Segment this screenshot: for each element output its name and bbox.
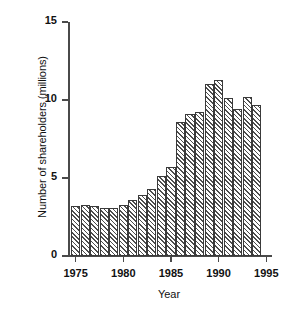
plot-area: 051015 19751980198519901995 <box>68 22 272 256</box>
bar <box>166 167 175 256</box>
x-axis-title: Year <box>66 288 272 300</box>
x-axis-tick: 1980 <box>123 256 125 262</box>
bar <box>205 84 214 256</box>
x-axis-tick-label: 1995 <box>254 267 278 279</box>
bar <box>157 176 166 256</box>
bar <box>147 189 156 256</box>
bar <box>214 80 223 256</box>
bar <box>128 200 137 256</box>
bar <box>252 105 261 256</box>
bar <box>71 206 80 256</box>
bar <box>138 195 147 256</box>
y-axis-tick-label: 15 <box>45 14 57 26</box>
bar <box>224 98 233 256</box>
y-axis-tick-label: 10 <box>45 92 57 104</box>
bar <box>81 205 90 256</box>
x-axis-tick-label: 1985 <box>159 267 183 279</box>
bar <box>109 208 118 256</box>
x-axis-tick: 1985 <box>170 256 172 262</box>
x-axis-tick: 1995 <box>266 256 268 262</box>
x-axis-tick-label: 1990 <box>206 267 230 279</box>
y-axis-title: Number of shareholders (millions) <box>36 22 48 252</box>
bar <box>243 97 252 256</box>
bar <box>119 205 128 256</box>
bar <box>185 114 194 256</box>
bar <box>233 109 242 256</box>
bar <box>90 206 99 256</box>
x-axis-tick: 1990 <box>218 256 220 262</box>
chart-figure: Number of shareholders (millions) 051015… <box>0 0 284 313</box>
x-axis-tick-label: 1980 <box>111 267 135 279</box>
bar <box>100 208 109 256</box>
bar <box>176 122 185 256</box>
x-axis-tick-label: 1975 <box>63 267 87 279</box>
bar <box>195 112 204 256</box>
x-axis-tick: 1975 <box>75 256 77 262</box>
bar-series <box>68 22 272 256</box>
y-axis-tick-label: 5 <box>51 170 57 182</box>
y-axis-tick-label: 0 <box>51 248 57 260</box>
